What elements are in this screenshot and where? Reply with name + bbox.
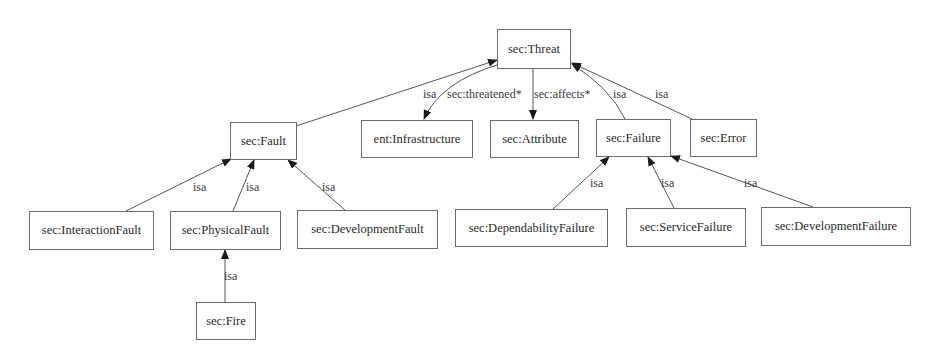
edge-label-threatened: sec:threatened* [447, 88, 522, 100]
node-error[interactable]: sec:Error [690, 119, 757, 157]
node-label: sec:Error [701, 131, 747, 146]
edge-label-servicefailure-failure: isa [661, 177, 674, 189]
edge-label-fault-threat: isa [423, 88, 436, 100]
edge-developmentfailure-failure [671, 156, 813, 207]
node-attribute[interactable]: sec:Attribute [490, 120, 579, 158]
node-label: sec:Attribute [502, 132, 567, 147]
edge-label-failure-threat: isa [613, 88, 626, 100]
edge-label-physicalfault-fault: isa [246, 181, 259, 193]
edge-label-affects: sec:affects* [534, 88, 590, 100]
edge-interactionfault-fault [126, 159, 231, 211]
ontology-diagram: sec:Threat sec:Fault ent:Infrastructure … [0, 0, 938, 355]
node-threat[interactable]: sec:Threat [497, 29, 571, 69]
node-service-failure[interactable]: sec:ServiceFailure [626, 208, 746, 247]
edges-layer [0, 0, 938, 355]
node-interaction-fault[interactable]: sec:InteractionFault [29, 211, 154, 250]
node-label: sec:Fire [206, 314, 246, 329]
edge-label-error-threat: isa [655, 88, 668, 100]
edge-label-interactionfault-fault: isa [193, 181, 206, 193]
node-physical-fault[interactable]: sec:PhysicalFault [170, 211, 281, 250]
node-fire[interactable]: sec:Fire [196, 302, 256, 340]
edge-label-developmentfailure-failure: isa [744, 177, 757, 189]
node-failure[interactable]: sec:Failure [596, 119, 671, 157]
edge-label-dependabilityfailure-failure: isa [590, 177, 603, 189]
node-label: sec:DevelopmentFault [311, 222, 423, 237]
node-label: sec:Fault [241, 134, 286, 149]
node-label: sec:PhysicalFault [182, 223, 270, 238]
node-fault[interactable]: sec:Fault [230, 122, 297, 160]
node-development-fault[interactable]: sec:DevelopmentFault [297, 210, 438, 249]
edge-label-fire-physicalfault: isa [224, 270, 237, 282]
node-dependability-failure[interactable]: sec:DependabilityFailure [455, 209, 608, 247]
node-label: ent:Infrastructure [374, 132, 461, 147]
node-label: sec:InteractionFault [42, 223, 141, 238]
node-development-failure[interactable]: sec:DevelopmentFailure [761, 207, 911, 246]
node-label: sec:Failure [606, 131, 661, 146]
node-infrastructure[interactable]: ent:Infrastructure [361, 120, 473, 158]
node-label: sec:DevelopmentFailure [775, 219, 897, 234]
node-label: sec:Threat [508, 42, 560, 57]
node-label: sec:DependabilityFailure [469, 221, 595, 236]
node-label: sec:ServiceFailure [640, 220, 732, 235]
edge-label-developmentfault-fault: isa [322, 181, 335, 193]
edge-developmentfault-fault [288, 160, 345, 210]
